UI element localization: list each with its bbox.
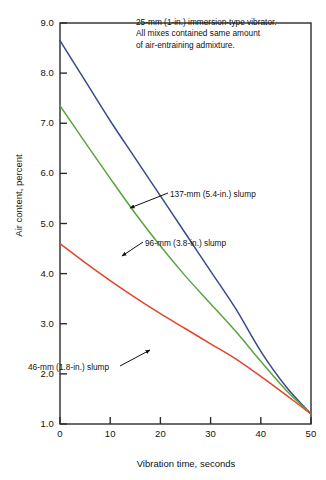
series-line-0	[60, 41, 311, 414]
y-tick-label: 7.0	[24, 117, 54, 128]
x-tick-label: 0	[48, 428, 72, 439]
series-line-2	[60, 244, 311, 414]
series-callout-137mm: 137-mm (5.4-in.) slump	[170, 189, 256, 199]
y-tick-label: 4.0	[24, 268, 54, 279]
y-tick-label: 8.0	[24, 67, 54, 78]
annotation-line-1: 25-mm (1-in.) immersion-type vibrator.	[136, 17, 277, 28]
callout-arrow-0	[130, 193, 168, 208]
x-tick-label: 40	[249, 428, 273, 439]
series-callout-46mm: 46-mm (1.8-in.) slump	[28, 362, 109, 372]
y-tick-label: 5.0	[24, 218, 54, 229]
data-series-group	[60, 41, 311, 414]
x-tick-label: 10	[98, 428, 122, 439]
y-tick-label: 3.0	[24, 318, 54, 329]
y-tick-label: 6.0	[24, 167, 54, 178]
callout-arrow-2	[120, 350, 150, 366]
x-tick-label: 20	[148, 428, 172, 439]
y-tick-label: 9.0	[24, 17, 54, 28]
callout-arrows-group	[120, 193, 168, 366]
annotation-line-3: of air-entraining admixture.	[136, 40, 277, 51]
callout-arrow-1	[122, 242, 143, 256]
annotation-line-2: All mixes contained same amount	[136, 28, 277, 39]
chart-annotation-note: 25-mm (1-in.) immersion-type vibrator. A…	[136, 17, 277, 51]
chart-container: 1.02.03.04.05.06.07.08.09.001020304050 A…	[0, 0, 326, 480]
x-tick-label: 30	[199, 428, 223, 439]
series-callout-96mm: 96-mm (3.8-in.) slump	[145, 238, 226, 248]
y-axis-title: Air content, percent	[13, 131, 24, 261]
x-axis-title: Vibration time, seconds	[60, 458, 312, 469]
x-tick-label: 50	[299, 428, 323, 439]
x-tick-marks	[60, 417, 311, 424]
